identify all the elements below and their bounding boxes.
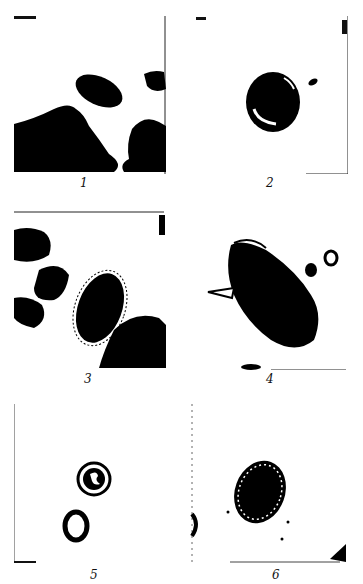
panel-6: 6 xyxy=(190,404,348,564)
panel-2: 2 xyxy=(196,14,348,174)
panel-2-label: 2 xyxy=(266,176,274,190)
panel-1-image xyxy=(14,14,166,174)
panel-3-image xyxy=(14,210,166,370)
panel-1-label: 1 xyxy=(80,176,88,190)
panel-2-image xyxy=(196,14,348,174)
panel-5: 5 xyxy=(14,404,166,564)
panel-3: 3 xyxy=(14,210,166,370)
panel-4-label: 4 xyxy=(266,372,274,386)
panel-5-label: 5 xyxy=(90,568,98,582)
panel-1: 1 xyxy=(14,14,166,174)
panel-3-label: 3 xyxy=(84,372,92,386)
panel-4: 4 xyxy=(196,210,348,370)
panel-6-image xyxy=(190,404,348,564)
panel-5-image xyxy=(14,404,166,564)
panel-4-image xyxy=(196,210,348,370)
panel-6-label: 6 xyxy=(272,568,280,582)
